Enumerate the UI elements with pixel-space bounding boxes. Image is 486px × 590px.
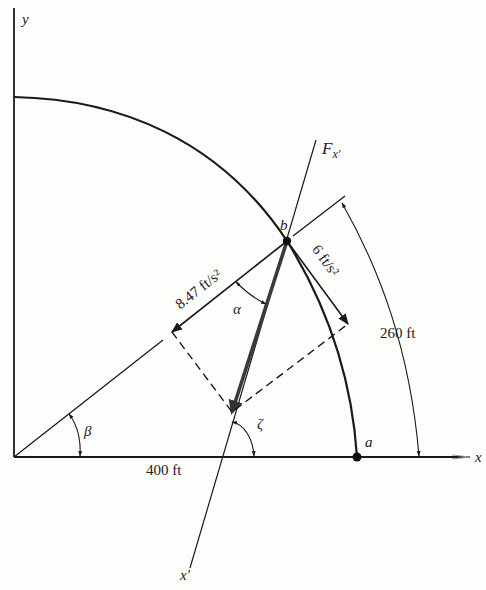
component-parallelogram xyxy=(172,324,348,412)
diagram-canvas: y x x' Fx' b a α β ζ 400 ft 260 ft 8.47 … xyxy=(0,0,486,590)
arc-dimension-label: 260 ft xyxy=(380,326,415,341)
alpha-label: α xyxy=(233,302,241,317)
x-prime-axis xyxy=(190,140,316,568)
point-b-dot xyxy=(283,237,291,245)
force-subscript: x' xyxy=(332,147,340,161)
track-arc xyxy=(14,97,357,457)
radial-line-upper xyxy=(293,196,345,236)
point-a-dot xyxy=(353,453,362,462)
resultant-acceleration-arrow xyxy=(232,241,287,412)
point-b-label: b xyxy=(280,218,288,233)
beta-angle-arc xyxy=(69,414,80,456)
force-symbol: F xyxy=(322,139,332,158)
x-axis-label: x xyxy=(475,450,482,465)
diagram-drawing xyxy=(0,0,486,590)
beta-label: β xyxy=(84,424,91,439)
x-prime-axis-label: x' xyxy=(180,568,190,583)
force-label: Fx' xyxy=(322,140,340,160)
y-axis-label: y xyxy=(22,12,29,27)
zeta-angle-arc xyxy=(232,422,254,456)
zeta-label: ζ xyxy=(257,417,263,432)
radial-line xyxy=(14,340,163,457)
horizontal-dimension-label: 400 ft xyxy=(146,463,181,478)
point-a-label: a xyxy=(365,435,373,450)
